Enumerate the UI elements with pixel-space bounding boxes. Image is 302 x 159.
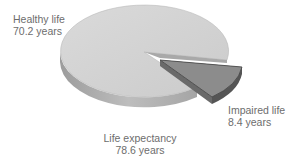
label-total-name: Life expectancy <box>0 132 280 144</box>
label-impaired-life: Impaired life 8.4 years <box>228 104 285 128</box>
label-healthy-life: Healthy life 70.2 years <box>13 13 65 37</box>
label-total-value: 78.6 years <box>0 144 280 156</box>
label-impaired-name: Impaired life <box>228 104 285 116</box>
label-healthy-value: 70.2 years <box>13 25 65 37</box>
label-healthy-name: Healthy life <box>13 13 65 25</box>
label-impaired-value: 8.4 years <box>228 116 285 128</box>
label-life-expectancy: Life expectancy 78.6 years <box>0 132 280 156</box>
